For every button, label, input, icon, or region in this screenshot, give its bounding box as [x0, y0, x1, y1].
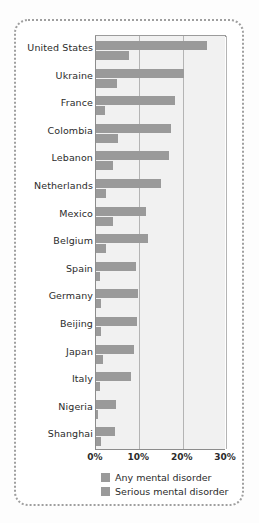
bar-serious	[96, 79, 117, 88]
bar-serious	[96, 244, 106, 253]
bar-any	[96, 41, 207, 50]
bar-group	[96, 367, 225, 395]
bar-group	[96, 36, 225, 64]
bar-group	[96, 257, 225, 285]
bar-serious	[96, 134, 118, 143]
bar-group	[96, 174, 225, 202]
category-label: Germany	[49, 290, 93, 301]
bar-group	[96, 340, 225, 368]
bar-serious	[96, 299, 101, 308]
bar-any	[96, 289, 138, 298]
bar-any	[96, 234, 148, 243]
x-tick-30: 30%	[214, 452, 236, 462]
bar-serious	[96, 437, 101, 446]
category-label: Netherlands	[34, 180, 93, 191]
bar-group	[96, 119, 225, 147]
x-tick-0: 0%	[87, 452, 102, 462]
bar-serious	[96, 410, 98, 419]
category-label: Colombia	[48, 125, 93, 136]
bar-any	[96, 262, 136, 271]
x-tick-20: 20%	[171, 452, 193, 462]
bar-group	[96, 229, 225, 257]
legend-item-serious: Serious mental disorder	[101, 486, 229, 497]
bar-group	[96, 284, 225, 312]
bar-group	[96, 202, 225, 230]
gridline-30	[226, 36, 227, 449]
category-label: Spain	[66, 263, 93, 274]
bar-group	[96, 422, 225, 450]
bar-chart: United StatesUkraineFranceColombiaLebano…	[0, 0, 259, 523]
chart-legend: Any mental disorder Serious mental disor…	[101, 472, 229, 500]
bar-group	[96, 395, 225, 423]
bar-any	[96, 372, 131, 381]
bar-any	[96, 345, 134, 354]
bar-any	[96, 427, 115, 436]
bar-group	[96, 64, 225, 92]
category-label: Beijing	[60, 318, 93, 329]
bar-any	[96, 151, 169, 160]
bar-serious	[96, 106, 105, 115]
bar-group	[96, 312, 225, 340]
category-label: United States	[27, 42, 93, 53]
bar-any	[96, 96, 175, 105]
legend-label-any: Any mental disorder	[115, 472, 211, 483]
category-label: Belgium	[53, 235, 93, 246]
category-label: Nigeria	[58, 401, 93, 412]
category-label: Ukraine	[56, 70, 93, 81]
bar-serious	[96, 189, 106, 198]
bar-group	[96, 146, 225, 174]
bar-serious	[96, 217, 113, 226]
x-tick-10: 10%	[128, 452, 150, 462]
bar-any	[96, 179, 161, 188]
category-label: Japan	[66, 346, 93, 357]
category-label: Mexico	[59, 208, 93, 219]
category-label: Italy	[72, 373, 93, 384]
bar-any	[96, 124, 171, 133]
plot-area	[95, 36, 225, 450]
bar-any	[96, 317, 137, 326]
bar-any	[96, 400, 116, 409]
legend-item-any: Any mental disorder	[101, 472, 229, 483]
bar-serious	[96, 327, 101, 336]
legend-label-serious: Serious mental disorder	[115, 486, 229, 497]
bar-serious	[96, 382, 100, 391]
bar-serious	[96, 51, 129, 60]
bar-any	[96, 207, 146, 216]
bar-serious	[96, 355, 103, 364]
category-label: France	[61, 97, 93, 108]
bar-group	[96, 91, 225, 119]
bar-serious	[96, 272, 100, 281]
bar-rows	[96, 36, 225, 449]
screenshot-root: United StatesUkraineFranceColombiaLebano…	[0, 0, 259, 523]
bar-serious	[96, 161, 113, 170]
legend-swatch-icon-serious	[101, 487, 110, 496]
bar-any	[96, 69, 184, 78]
legend-swatch-icon-any	[101, 473, 110, 482]
category-label: Shanghai	[48, 428, 93, 439]
category-label: Lebanon	[52, 152, 93, 163]
